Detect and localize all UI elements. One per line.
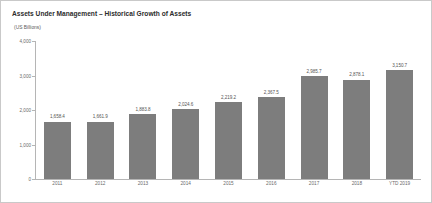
x-axis-tick-label: 2017	[293, 181, 336, 186]
bar-value-label: 2,219.2	[221, 95, 236, 100]
bar-slot: 1,661.9	[79, 41, 122, 179]
bar-slot: 2,219.2	[207, 41, 250, 179]
x-axis-line	[35, 179, 421, 180]
bar-slot: 2,367.5	[250, 41, 293, 179]
y-axis-tick-label: 0	[28, 177, 31, 182]
bar[interactable]	[386, 70, 413, 179]
bar-value-label: 2,878.1	[349, 72, 364, 77]
x-axis-tick-label: 2015	[207, 181, 250, 186]
bar[interactable]	[343, 80, 370, 179]
x-axis-tick-label: 2018	[335, 181, 378, 186]
x-axis-tick-label: YTD 2019	[378, 181, 421, 186]
bar[interactable]	[129, 114, 156, 179]
chart-page: Assets Under Management – Historical Gro…	[0, 0, 432, 203]
y-axis-tick-mark	[32, 110, 35, 111]
x-axis-tick-label: 2016	[250, 181, 293, 186]
y-axis-tick-label: 3,000	[20, 73, 32, 78]
y-axis-tick-mark	[32, 145, 35, 146]
y-axis-tick-label: 1,000	[20, 142, 32, 147]
x-axis-tick-label: 2014	[164, 181, 207, 186]
bar-value-label: 3,150.7	[392, 63, 407, 68]
x-axis-tick-label: 2012	[79, 181, 122, 186]
bar-value-label: 2,367.5	[264, 90, 279, 95]
plot-area: 4,0003,0002,0001,0000 1,658.41,661.91,88…	[35, 41, 421, 179]
page-title: Assets Under Management – Historical Gro…	[12, 10, 191, 17]
bar-value-label: 1,658.4	[50, 114, 65, 119]
bar-slot: 3,150.7	[378, 41, 421, 179]
bar-value-label: 1,661.9	[93, 114, 108, 119]
y-axis-tick-labels: 4,0003,0002,0001,0000	[1, 41, 35, 179]
bar[interactable]	[172, 109, 199, 179]
x-axis-tick-labels: 20112012201320142015201620172018YTD 2019	[36, 181, 421, 186]
bar[interactable]	[301, 76, 328, 179]
bar-value-label: 1,883.8	[135, 107, 150, 112]
bar-slot: 2,985.7	[293, 41, 336, 179]
bar-slot: 2,024.6	[164, 41, 207, 179]
bar-series: 1,658.41,661.91,883.82,024.62,219.22,367…	[36, 41, 421, 179]
x-axis-tick-label: 2011	[36, 181, 79, 186]
y-axis-tick-label: 2,000	[20, 108, 32, 113]
bar-slot: 1,658.4	[36, 41, 79, 179]
bar-slot: 2,878.1	[335, 41, 378, 179]
y-axis-tick-mark	[32, 76, 35, 77]
bar[interactable]	[87, 122, 114, 179]
bar-value-label: 2,024.6	[178, 102, 193, 107]
y-axis-tick-mark	[32, 179, 35, 180]
bar-slot: 1,883.8	[122, 41, 165, 179]
bar[interactable]	[258, 97, 285, 179]
chart-subtitle: (US Billions)	[14, 25, 41, 30]
y-axis-tick-label: 4,000	[20, 39, 32, 44]
x-axis-tick-label: 2013	[122, 181, 165, 186]
bar[interactable]	[44, 122, 71, 179]
bar[interactable]	[215, 102, 242, 179]
y-axis-tick-mark	[32, 41, 35, 42]
bar-value-label: 2,985.7	[307, 69, 322, 74]
